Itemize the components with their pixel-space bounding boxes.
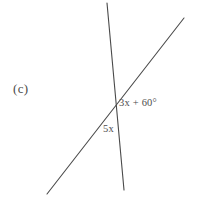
geometry-figure: (c) 3x + 60° 5x — [0, 0, 199, 211]
lines-canvas — [0, 0, 199, 211]
lower-angle-label: 5x — [103, 123, 114, 134]
upper-angle-label: 3x + 60° — [119, 97, 157, 108]
diagonal-line — [47, 18, 184, 194]
part-label: (c) — [13, 81, 28, 97]
